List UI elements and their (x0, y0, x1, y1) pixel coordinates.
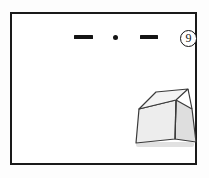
frustum-truncated-pyramid (130, 86, 204, 154)
figure-page: 9 (0, 0, 209, 178)
dash-mark-right (140, 35, 158, 39)
circled-number-icon: 9 (180, 30, 197, 47)
dash-mark-left (74, 35, 93, 39)
frustum-svg (130, 86, 204, 154)
dot-mark-center (113, 35, 118, 40)
frustum-back-edge (188, 89, 192, 109)
figure-number-label: 9 (186, 32, 192, 44)
frustum-right-face (175, 100, 196, 142)
drawing-border: 9 (10, 12, 197, 165)
